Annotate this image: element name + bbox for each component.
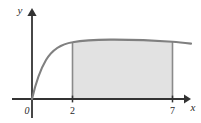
origin-label: 0 xyxy=(25,105,30,116)
area-under-curve-fill xyxy=(73,40,173,99)
y-axis-label: y xyxy=(17,4,23,16)
figure-container: y x 0 2 7 xyxy=(0,0,201,123)
y-axis-arrowhead xyxy=(27,8,36,16)
x-axis-label: x xyxy=(190,101,196,113)
x-tick-label-7: 7 xyxy=(170,105,175,116)
x-tick-label-2: 2 xyxy=(70,105,75,116)
math-figure-svg: y x 0 2 7 xyxy=(0,0,201,123)
